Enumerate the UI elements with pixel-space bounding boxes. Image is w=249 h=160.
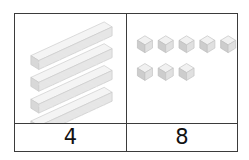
ones-cube-5 [221, 36, 236, 53]
tens-numeral: 4 [15, 124, 127, 151]
tens-blocks-cell [15, 14, 127, 123]
ones-cube-8 [179, 64, 194, 81]
ones-cube-row-bottom [137, 64, 194, 81]
ones-cube-7 [158, 64, 173, 81]
ones-cube-row-top [137, 36, 235, 53]
blocks-row [15, 14, 237, 124]
tens-rods-svg [15, 14, 126, 123]
base-ten-blocks-figure: 4 8 [0, 0, 249, 160]
ones-cubes-svg [127, 14, 237, 123]
ones-cube-3 [179, 36, 194, 53]
ones-cubes-illustration [127, 14, 237, 123]
ones-blocks-cell [127, 14, 237, 123]
ones-numeral: 8 [127, 124, 237, 151]
tens-rods-illustration [15, 14, 126, 123]
ones-cube-2 [158, 36, 173, 53]
ones-cube-1 [137, 36, 152, 53]
ones-cube-4 [200, 36, 215, 53]
place-value-table: 4 8 [14, 13, 238, 152]
numerals-row: 4 8 [15, 124, 237, 151]
ones-cube-6 [137, 64, 152, 81]
